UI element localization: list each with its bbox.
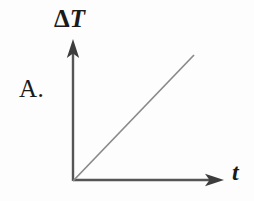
temperature-variable: T [70,5,85,32]
figure-panel: A. ΔT t [0,0,254,201]
delta-symbol: Δ [54,5,70,32]
item-label: A. [19,76,44,101]
y-axis-label: ΔT [54,6,85,31]
data-line-linear [73,55,194,181]
x-axis-label: t [232,160,239,184]
